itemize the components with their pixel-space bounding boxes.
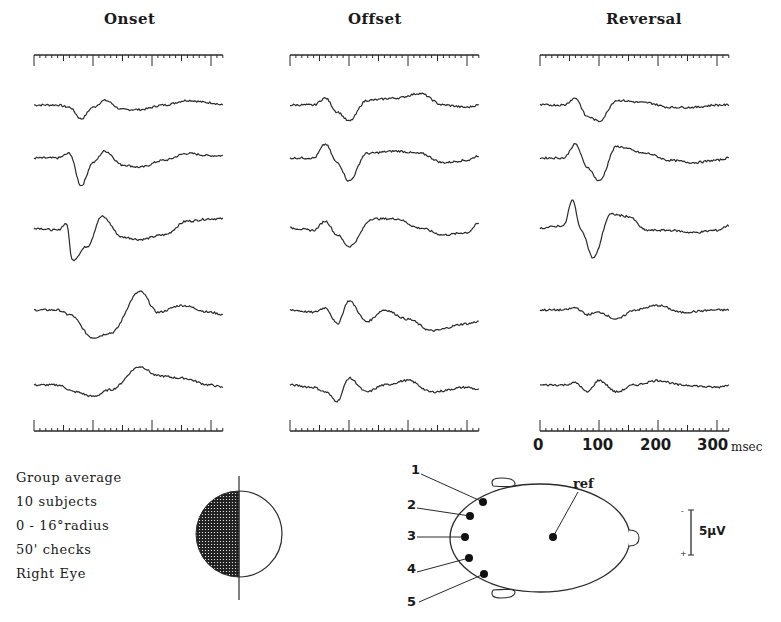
electrode-label-2: 2 [407, 497, 416, 512]
waveform-offset-electrode-5 [290, 377, 479, 402]
tick-label-0: 0 [533, 436, 543, 454]
legend-line-5: Right Eye [16, 562, 122, 586]
legend-line-3: 0 - 16°radius [16, 514, 122, 538]
scale-plus-sign: + [680, 549, 687, 558]
waveform-reversal-electrode-4 [540, 305, 729, 319]
reference-electrode-label: ref [573, 476, 594, 491]
electrode-lead-5 [419, 574, 484, 602]
waveform-onset-electrode-1 [34, 100, 223, 120]
tick-label-200: 200 [640, 436, 671, 454]
waveform-onset-electrode-5 [34, 367, 223, 397]
waveform-onset-electrode-4 [34, 291, 223, 338]
legend-line-2: 10 subjects [16, 490, 122, 514]
waveform-offset-electrode-1 [290, 93, 479, 121]
electrode-1-dot [479, 498, 487, 506]
reference-electrode-dot [549, 533, 557, 541]
scale-minus-sign: - [681, 507, 684, 516]
legend-line-1: Group average [16, 466, 122, 490]
nose-icon [629, 530, 639, 546]
waveform-reversal-electrode-2 [540, 144, 729, 181]
electrode-lead-1 [421, 474, 483, 502]
electrode-3-dot [461, 533, 469, 541]
waveform-offset-electrode-2 [290, 144, 479, 181]
waveform-reversal-electrode-3 [540, 200, 729, 258]
electrode-label-1: 1 [411, 462, 420, 477]
electrode-4-dot [465, 554, 473, 562]
waveform-offset-electrode-4 [290, 301, 479, 332]
reference-lead [553, 492, 578, 537]
legend-line-4: 50' checks [16, 538, 122, 562]
waveform-onset-electrode-3 [34, 216, 223, 261]
waveform-reversal-electrode-1 [540, 98, 729, 122]
head-outline [450, 484, 630, 592]
stimulus-legend: Group average 10 subjects 0 - 16°radius … [16, 466, 122, 586]
unstimulated-right-hemifield [239, 491, 282, 577]
stimulated-left-hemifield [196, 491, 239, 577]
electrode-label-5: 5 [407, 594, 416, 609]
amplitude-scale-label: 5µV [699, 524, 725, 538]
waveform-offset-electrode-3 [290, 218, 479, 247]
electrode-5-dot [480, 570, 488, 578]
electrode-lead-2 [417, 508, 470, 516]
ear-bottom-icon [492, 589, 515, 598]
electrode-label-3: 3 [407, 528, 416, 543]
electrode-2-dot [466, 512, 474, 520]
time-unit-label: msec [731, 440, 762, 454]
electrode-label-4: 4 [407, 561, 416, 576]
tick-label-100: 100 [582, 436, 613, 454]
ear-top-icon [492, 478, 515, 487]
waveform-onset-electrode-2 [34, 151, 223, 186]
tick-label-300: 300 [697, 436, 728, 454]
waveform-reversal-electrode-5 [540, 380, 729, 393]
